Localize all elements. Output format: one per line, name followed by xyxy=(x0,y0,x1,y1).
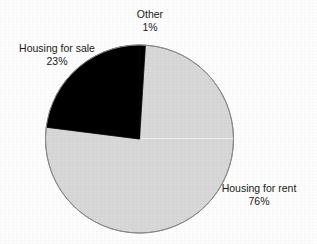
pie-label-housing-for-sale: Housing for sale 23% xyxy=(5,42,109,67)
pie-label-other: Other 1% xyxy=(111,8,189,33)
pie-label-other-percent: 1% xyxy=(111,21,189,34)
pie-label-other-name: Other xyxy=(137,8,163,20)
pie-label-housing-for-sale-percent: 23% xyxy=(5,55,109,68)
pie-chart-graphic xyxy=(0,0,317,244)
pie-chart: Other 1% Housing for sale 23% Housing fo… xyxy=(0,0,317,244)
pie-label-housing-for-sale-name: Housing for sale xyxy=(19,42,95,54)
pie-label-housing-for-rent-name: Housing for rent xyxy=(222,182,297,194)
pie-label-housing-for-rent-percent: 76% xyxy=(204,195,314,208)
pie-label-housing-for-rent: Housing for rent 76% xyxy=(204,182,314,207)
